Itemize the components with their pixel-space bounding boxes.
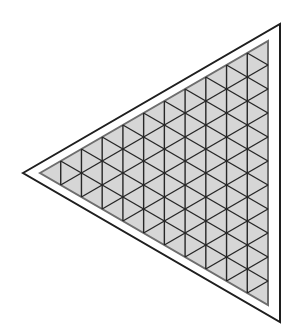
triangular-grid-diagram: [0, 0, 307, 332]
inner-triangle-fill: [40, 41, 268, 305]
